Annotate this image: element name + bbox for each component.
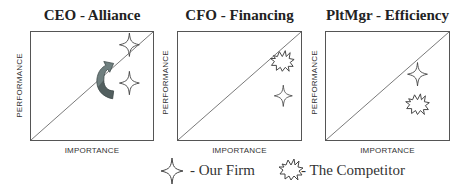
diagonal-line (326, 32, 449, 140)
our-firm-star-icon (119, 71, 139, 94)
panel-title-pltmgr-efficiency: PltMgr - Efficiency (325, 7, 450, 24)
x-axis-label: IMPORTANCE (325, 146, 450, 155)
diagonal-line (31, 32, 153, 140)
panel-title-ceo-alliance: CEO - Alliance (30, 7, 154, 24)
y-axis-label: PERFORMANCE (161, 43, 170, 123)
panel-title-cfo-financing: CFO - Financing (177, 7, 302, 24)
competitor-burst-icon (406, 94, 430, 115)
legend-competitor-label: - The Competitor (301, 162, 405, 179)
quadrant-chart-pltmgr-efficiency (325, 31, 450, 141)
legend-our-firm-label: - Our Firm (190, 162, 255, 179)
quadrant-chart-cfo-financing (177, 31, 302, 141)
our-firm-star-icon (274, 85, 292, 106)
our-firm-star-icon (119, 33, 139, 56)
quadrant-chart-ceo-alliance (30, 31, 154, 141)
y-axis-label: PERFORMANCE (310, 43, 319, 123)
x-axis-label: IMPORTANCE (30, 146, 154, 155)
y-axis-label: PERFORMANCE (15, 46, 24, 126)
competitor-burst-icon (270, 51, 294, 72)
x-axis-label: IMPORTANCE (177, 146, 302, 155)
four-point-star-icon (160, 157, 184, 185)
curved-arrow-icon (97, 61, 114, 98)
diagonal-line (178, 32, 301, 140)
